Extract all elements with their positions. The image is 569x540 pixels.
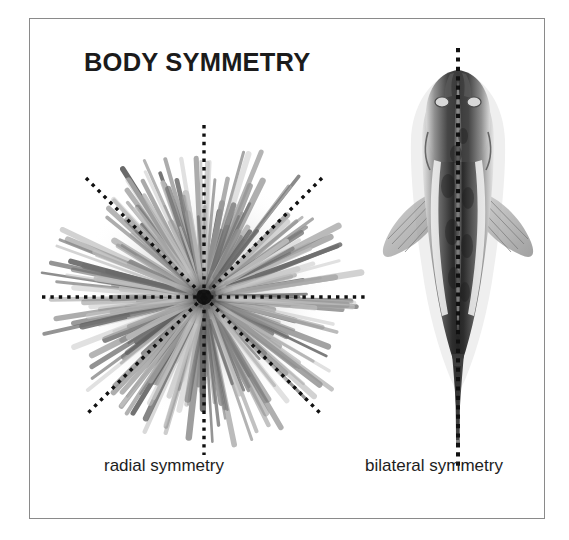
panel-bilateral-symmetry — [368, 36, 548, 476]
sea-urchin-illustration — [36, 110, 376, 470]
caption-radial-symmetry: radial symmetry — [104, 456, 224, 476]
fish-eye-right — [467, 97, 481, 107]
page-title: BODY SYMMETRY — [84, 48, 310, 77]
fish-eye-left — [435, 97, 449, 107]
panel-radial-symmetry — [36, 110, 376, 470]
caption-bilateral-symmetry: bilateral symmetry — [365, 456, 503, 476]
fish-illustration — [368, 36, 548, 476]
figure-page: BODY SYMMETRY — [0, 0, 569, 540]
